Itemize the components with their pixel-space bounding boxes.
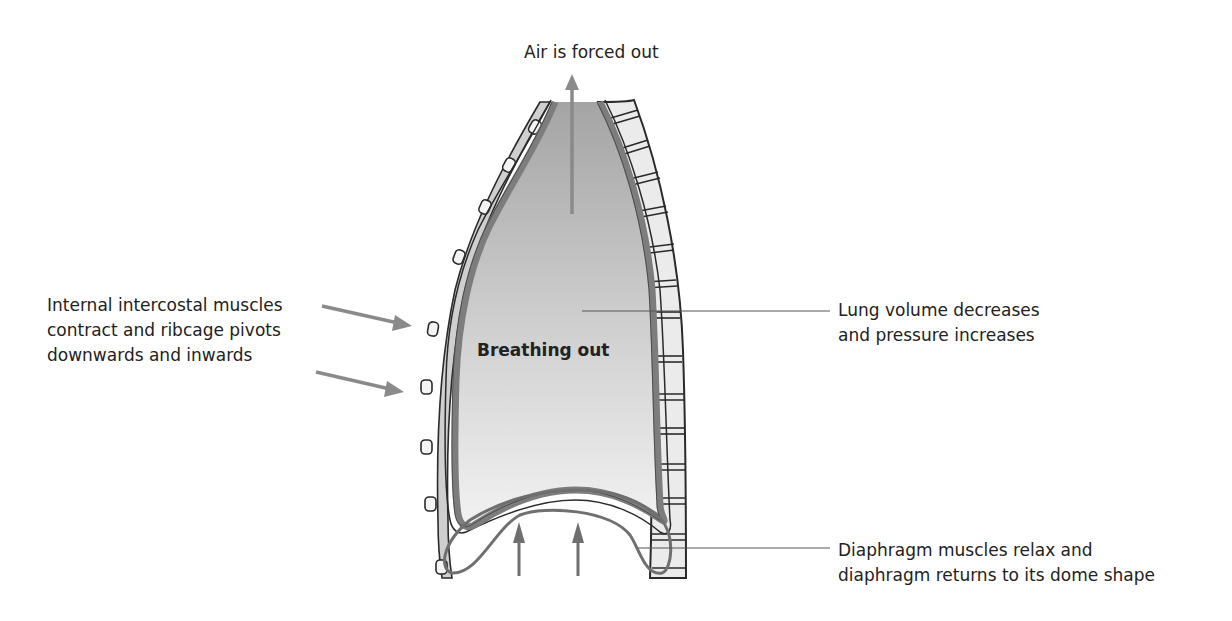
label-intercostal: Internal intercostal muscles contract an… <box>47 293 283 368</box>
label-lung-volume: Lung volume decreases and pressure incre… <box>838 298 1040 348</box>
label-diaphragm: Diaphragm muscles relax and diaphragm re… <box>838 538 1155 588</box>
diagram-title: Breathing out <box>477 338 610 363</box>
diaphragm-arrows <box>513 522 584 576</box>
ribcage-arrows <box>316 306 412 397</box>
label-air-forced-out: Air is forced out <box>524 40 659 65</box>
